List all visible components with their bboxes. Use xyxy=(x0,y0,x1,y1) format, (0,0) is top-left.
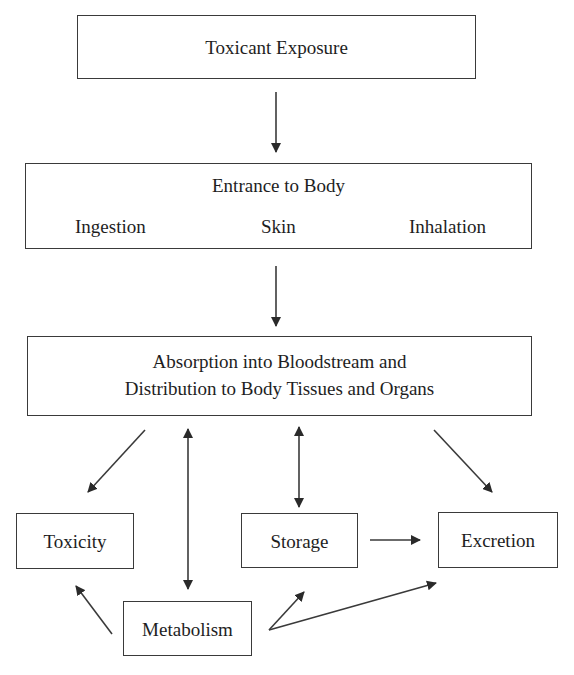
route-inhalation: Inhalation xyxy=(409,217,486,236)
node-excretion: Excretion xyxy=(438,512,558,568)
arrow-metabolism-to-excretion xyxy=(269,583,436,630)
arrow-absorption-to-excretion xyxy=(434,430,492,492)
node-label-line1: Absorption into Bloodstream and xyxy=(28,352,531,371)
route-ingestion: Ingestion xyxy=(75,217,146,236)
arrow-metabolism-to-storage xyxy=(269,592,304,630)
node-label: Excretion xyxy=(439,531,557,550)
node-storage: Storage xyxy=(241,513,358,568)
node-toxicant-exposure: Toxicant Exposure xyxy=(77,15,476,79)
route-skin: Skin xyxy=(261,217,296,236)
node-label: Toxicity xyxy=(17,532,133,551)
node-entrance-to-body: Entrance to Body Ingestion Skin Inhalati… xyxy=(25,163,532,249)
node-label-line2: Distribution to Body Tissues and Organs xyxy=(28,379,531,398)
node-toxicity: Toxicity xyxy=(16,513,134,569)
node-label: Metabolism xyxy=(124,620,251,639)
node-absorption-distribution: Absorption into Bloodstream and Distribu… xyxy=(27,336,532,416)
node-label: Storage xyxy=(242,532,357,551)
node-metabolism: Metabolism xyxy=(123,601,252,656)
node-label: Toxicant Exposure xyxy=(78,38,475,57)
node-label: Entrance to Body xyxy=(26,176,531,195)
arrow-absorption-to-toxicity xyxy=(88,430,145,492)
arrow-metabolism-to-toxicity xyxy=(76,586,112,634)
